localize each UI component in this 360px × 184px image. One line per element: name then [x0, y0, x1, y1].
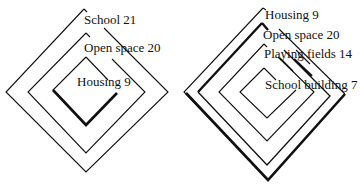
left-label-school: School 21 — [84, 12, 136, 27]
right-second-diamond — [198, 23, 268, 92]
left-inner-diamond — [53, 57, 108, 125]
left-diagram — [6, 9, 168, 172]
right-second-diamond-rest — [198, 50, 330, 165]
right-inner-diamond — [240, 68, 296, 118]
right-leader-strokes-bold — [294, 59, 312, 76]
left-label-open-space: Open space 20 — [84, 40, 161, 55]
diagram-canvas: School 21 Open space 20 Housing 9 Housin… — [0, 0, 360, 184]
left-label-housing: Housing 9 — [77, 74, 131, 89]
right-label-playing-fields: Playing fields 14 — [264, 46, 353, 61]
right-label-housing: Housing 9 — [265, 7, 319, 22]
right-label-open-space: Open space 20 — [263, 27, 340, 42]
right-label-school-building: School building 7 — [265, 77, 358, 92]
left-inner-diamond-bold-edge — [53, 90, 117, 125]
